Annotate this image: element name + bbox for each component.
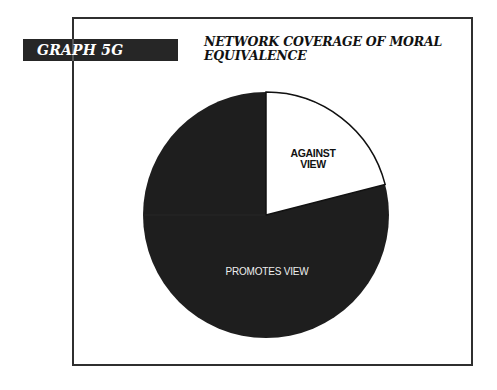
slice-label-against-line-2: VIEW xyxy=(283,159,343,170)
slice-label-promotes-view: PROMOTES VIEW xyxy=(217,266,317,278)
pie-chart xyxy=(0,0,497,390)
slice-label-against-view: AGAINST VIEW xyxy=(283,148,343,170)
